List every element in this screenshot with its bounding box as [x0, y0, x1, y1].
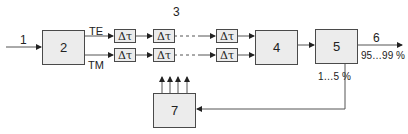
delay-element: Δτ [216, 29, 238, 43]
block-3-label: 3 [173, 6, 180, 18]
block-7: 7 [153, 93, 196, 128]
delay-element: Δτ [153, 48, 175, 62]
delay-element: Δτ [216, 48, 238, 62]
delay-element: Δτ [153, 29, 175, 43]
block-4-label: 4 [273, 40, 280, 55]
delay-label: Δτ [220, 49, 234, 62]
block-5-label: 5 [333, 39, 340, 54]
connector-lines [0, 0, 408, 134]
channel-te-label: TE [89, 26, 103, 37]
delay-label: Δτ [118, 49, 132, 62]
delay-label: Δτ [157, 30, 171, 43]
delay-element: Δτ [114, 48, 136, 62]
output-label: 6 [373, 32, 380, 44]
block-2: 2 [42, 30, 85, 65]
output-ratio: 95…99 % [361, 50, 405, 61]
block-5: 5 [315, 29, 358, 64]
delay-element: Δτ [114, 29, 136, 43]
feedback-ratio: 1…5 % [318, 71, 351, 82]
delay-label: Δτ [118, 30, 132, 43]
block-7-label: 7 [171, 103, 178, 118]
block-4: 4 [255, 30, 298, 65]
input-label: 1 [20, 34, 27, 46]
delay-label: Δτ [157, 49, 171, 62]
block-2-label: 2 [60, 40, 67, 55]
channel-tm-label: TM [88, 60, 104, 71]
delay-label: Δτ [220, 30, 234, 43]
